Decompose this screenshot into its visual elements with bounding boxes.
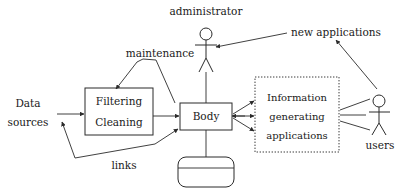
body-label: Body	[193, 110, 220, 122]
edge-users-to-infoapps-upper	[340, 99, 370, 110]
links-label: links	[111, 159, 136, 171]
users-right-leg-line	[379, 123, 386, 135]
new-applications-label: new applications	[291, 26, 381, 38]
edge-maintenance-branch-to-filtering	[116, 62, 137, 89]
administrator-left-leg-line	[199, 58, 206, 72]
edge-users-to-infoapps-lower	[340, 121, 370, 130]
information-label: Information	[267, 92, 328, 103]
data-sources-label-line2: sources	[8, 116, 49, 128]
administrator-label: administrator	[170, 5, 244, 17]
edge-links-to-body	[155, 129, 178, 144]
administrator-right-leg-line	[206, 58, 213, 72]
administrator-head-icon	[200, 28, 212, 40]
diagram-canvas: administrator new applications maintenan…	[0, 0, 407, 192]
edge-users-to-newapplications	[336, 40, 377, 89]
edge-body-to-infoapps-upper	[233, 101, 254, 114]
users-head-icon	[373, 95, 385, 107]
edge-newapplications-to-administrator	[216, 33, 287, 47]
users-figure	[369, 95, 390, 135]
cleaning-label: Cleaning	[95, 116, 143, 128]
edge-maintenance-stem	[137, 59, 143, 62]
filtering-label: Filtering	[96, 95, 143, 107]
generating-label: generating	[269, 111, 325, 122]
data-sources-label-line1: Data	[15, 97, 40, 109]
database-cylinder	[178, 157, 234, 187]
applications-label: applications	[266, 130, 328, 141]
architecture-diagram: administrator new applications maintenan…	[0, 0, 407, 192]
edge-body-to-infoapps-lower	[233, 118, 254, 131]
administrator-figure	[195, 28, 217, 72]
maintenance-label: maintenance	[126, 47, 195, 59]
users-label: users	[366, 139, 395, 151]
users-left-leg-line	[372, 123, 379, 135]
